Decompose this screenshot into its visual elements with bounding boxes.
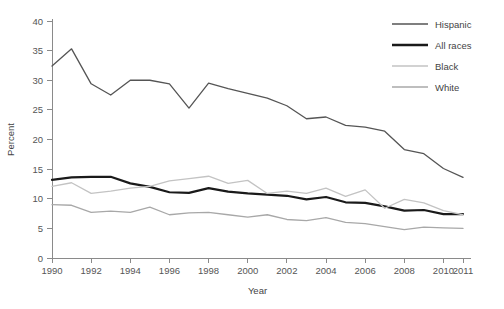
y-tick-label: 5 (38, 223, 43, 234)
chart-legend: HispanicAll racesBlackWhite (392, 19, 472, 93)
y-axis-ticks: 0510152025303540 (32, 16, 52, 264)
y-tick-label: 30 (32, 75, 43, 86)
y-tick-label: 0 (38, 253, 43, 264)
legend-label-hispanic: Hispanic (435, 19, 472, 30)
x-tick-label: 1998 (198, 265, 219, 276)
series-line-white (52, 205, 463, 230)
y-axis-title: Percent (5, 123, 16, 156)
series-line-hispanic (52, 49, 463, 178)
legend-label-black: Black (435, 61, 458, 72)
legend-label-white: White (435, 82, 459, 93)
y-tick-label: 10 (32, 193, 43, 204)
x-axis-title: Year (248, 285, 267, 296)
x-tick-label: 2000 (237, 265, 258, 276)
x-tick-label: 2006 (355, 265, 376, 276)
legend-label-all-races: All races (435, 40, 472, 51)
x-tick-label: 2011 (453, 265, 473, 276)
x-tick-label: 2008 (394, 265, 415, 276)
y-tick-label: 20 (32, 134, 43, 145)
y-tick-label: 35 (32, 45, 43, 56)
y-tick-label: 40 (32, 16, 43, 27)
x-axis-ticks: 1990199219941996199820002002200420062008… (41, 258, 473, 276)
x-tick-label: 1992 (81, 265, 102, 276)
series-line-all-races (52, 177, 463, 214)
x-tick-label: 2004 (315, 265, 336, 276)
x-tick-label: 1996 (159, 265, 180, 276)
chart-canvas: 0510152025303540 19901992199419961998200… (0, 0, 504, 309)
line-chart: 0510152025303540 19901992199419961998200… (0, 0, 504, 309)
x-tick-label: 1990 (41, 265, 62, 276)
y-tick-label: 15 (32, 164, 43, 175)
data-series-group (52, 49, 463, 230)
x-tick-label: 2010 (433, 265, 454, 276)
x-tick-label: 2002 (276, 265, 297, 276)
x-tick-label: 1994 (120, 265, 141, 276)
y-tick-label: 25 (32, 104, 43, 115)
